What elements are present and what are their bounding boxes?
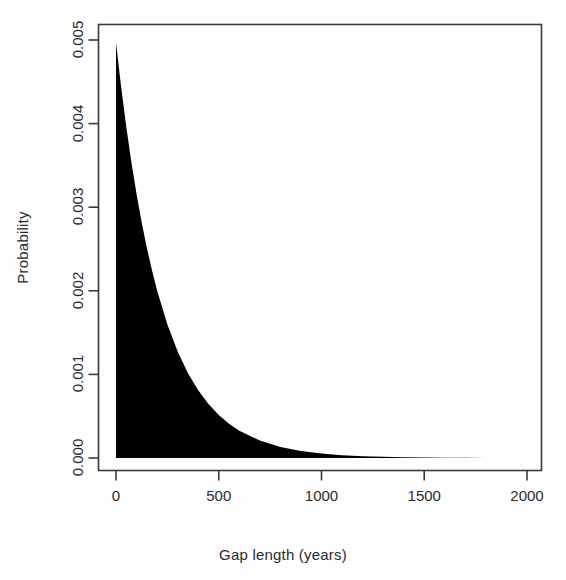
density-area-fill <box>116 43 539 458</box>
x-axis-ticks <box>116 471 527 481</box>
x-tick-label: 1000 <box>287 487 357 504</box>
x-axis-title: Gap length (years) <box>0 546 566 563</box>
x-tick-label: 1500 <box>389 487 459 504</box>
y-tick-label: 0.004 <box>69 88 86 158</box>
y-tick-label: 0.001 <box>69 339 86 409</box>
y-axis-ticks <box>89 40 99 458</box>
y-tick-label: 0.003 <box>69 172 86 242</box>
x-tick-label: 500 <box>184 487 254 504</box>
y-tick-label: 0.002 <box>69 255 86 325</box>
y-axis-title: Probability <box>14 178 31 318</box>
x-tick-label: 0 <box>81 487 151 504</box>
chart-figure: 0500100015002000 0.0000.0010.0020.0030.0… <box>0 0 566 580</box>
y-tick-label: 0.000 <box>69 423 86 493</box>
y-tick-label: 0.005 <box>69 5 86 75</box>
x-tick-label: 2000 <box>492 487 562 504</box>
